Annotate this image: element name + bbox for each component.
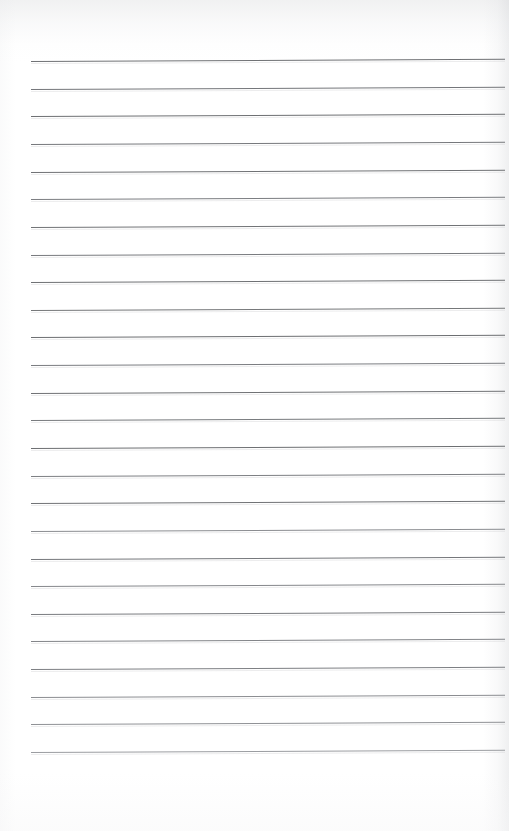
notebook-page [0,0,509,831]
rule-line [31,473,505,476]
rule-line [31,224,505,227]
rule-line [31,363,505,366]
rule-line [31,142,505,145]
rule-line [31,169,505,172]
rule-line [31,418,505,421]
rule-line [31,86,505,89]
rule-line [31,446,505,449]
ruled-lines-area [0,0,509,831]
rule-line [31,501,505,504]
rule-line [31,59,505,62]
rule-line [31,584,505,587]
rule-line [31,611,505,614]
rule-line [31,556,505,559]
rule-line [31,197,505,200]
rule-line [31,639,505,642]
rule-line [31,252,505,255]
rule-line [31,335,505,338]
rule-line [31,750,505,753]
rule-line [31,529,505,532]
rule-line [31,307,505,310]
rule-line [31,722,505,725]
rule-line [31,114,505,117]
rule-line [31,280,505,283]
rule-line [31,390,505,393]
rule-line [31,694,505,697]
rule-line [31,667,505,670]
